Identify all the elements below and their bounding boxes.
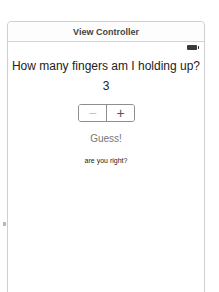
storyboard-canvas: View Controller How many fingers am I ho…: [0, 0, 219, 292]
count-label: 3: [8, 79, 204, 93]
scene-title-bar[interactable]: View Controller: [8, 22, 204, 42]
guess-button[interactable]: Guess!: [8, 133, 204, 144]
view-controller-scene[interactable]: View Controller How many fingers am I ho…: [7, 21, 205, 292]
battery-icon: [187, 45, 197, 50]
status-bar: [8, 42, 204, 54]
stepper-decrement-button[interactable]: −: [79, 105, 107, 121]
result-label: are you right?: [8, 157, 204, 164]
finger-count-stepper[interactable]: − +: [78, 104, 135, 122]
segue-handle-icon[interactable]: [3, 222, 6, 226]
scene-title: View Controller: [73, 27, 139, 37]
question-label: How many fingers am I holding up?: [8, 59, 204, 73]
stepper-increment-button[interactable]: +: [107, 105, 134, 121]
